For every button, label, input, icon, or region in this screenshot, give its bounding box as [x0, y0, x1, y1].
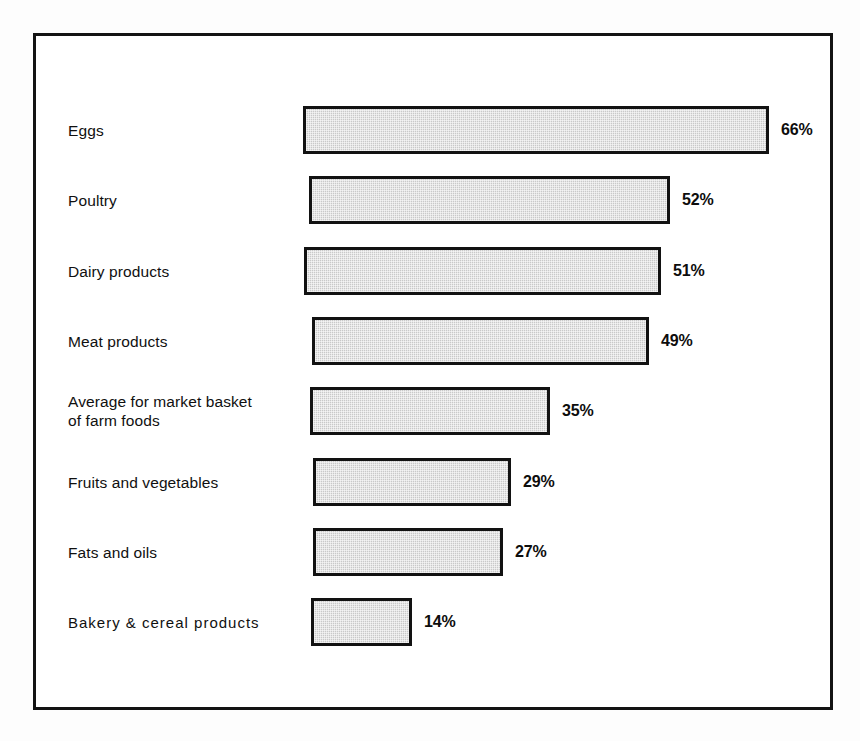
chart-row: Poultry52%	[36, 176, 836, 224]
bar	[313, 458, 511, 506]
chart-row: Dairy products51%	[36, 247, 836, 295]
bar-value-label: 29%	[523, 458, 554, 506]
bar-value-label: 51%	[673, 247, 704, 295]
bar-value-label: 27%	[515, 528, 546, 576]
category-label: Fruits and vegetables	[68, 458, 308, 506]
category-label: Meat products	[68, 317, 308, 365]
bar-value-label: 35%	[562, 387, 593, 435]
scanned-page-background: Eggs66%Poultry52%Dairy products51%Meat p…	[0, 0, 860, 741]
category-label: Eggs	[68, 106, 308, 154]
category-label: Dairy products	[68, 247, 308, 295]
category-label: Poultry	[68, 176, 308, 224]
bar-value-label: 52%	[682, 176, 713, 224]
chart-row: Meat products49%	[36, 317, 836, 365]
chart-row: Bakery & cereal products14%	[36, 598, 836, 646]
chart-frame-border: Eggs66%Poultry52%Dairy products51%Meat p…	[33, 33, 833, 710]
bar	[312, 317, 649, 365]
bar	[309, 176, 670, 224]
chart-row: Eggs66%	[36, 106, 836, 154]
bar-value-label: 66%	[781, 106, 812, 154]
bar-chart-plot-area: Eggs66%Poultry52%Dairy products51%Meat p…	[36, 36, 836, 713]
chart-row: Fats and oils27%	[36, 528, 836, 576]
category-label: Average for market basket of farm foods	[68, 387, 308, 435]
bar	[303, 106, 769, 154]
bar-value-label: 49%	[661, 317, 692, 365]
category-label: Fats and oils	[68, 528, 308, 576]
bar	[304, 247, 661, 295]
chart-row: Average for market basket of farm foods3…	[36, 387, 836, 435]
category-label: Bakery & cereal products	[68, 598, 308, 646]
bar	[311, 598, 412, 646]
bar	[313, 528, 503, 576]
bar-value-label: 14%	[424, 598, 455, 646]
chart-row: Fruits and vegetables29%	[36, 458, 836, 506]
bar	[310, 387, 550, 435]
